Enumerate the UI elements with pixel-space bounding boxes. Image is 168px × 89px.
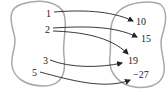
mapping-diagram: 1 2 3 5 10 15 19 −27 [0,0,168,89]
domain-element-1: 1 [46,8,51,19]
domain-element-3: 3 [43,55,48,66]
domain-element-5: 5 [32,67,37,78]
codomain-element-15: 15 [141,33,151,44]
codomain-element-10: 10 [136,16,146,27]
arrow-3-to-19 [50,60,122,66]
arrow-1-to-10 [54,11,133,21]
domain-set-outline [11,1,65,86]
domain-element-2: 2 [45,24,50,35]
codomain-element-19: 19 [128,55,138,66]
codomain-element-neg27: −27 [133,69,149,80]
